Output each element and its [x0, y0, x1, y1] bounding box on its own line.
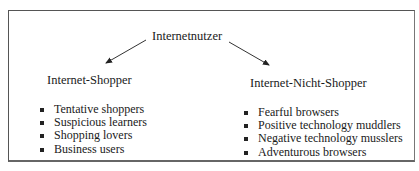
bullet-icon: [40, 108, 44, 112]
shopper-list: Tentative shoppers Suspicious learners S…: [40, 103, 147, 156]
list-item: Business users: [40, 143, 147, 156]
bullet-icon: [244, 124, 248, 128]
bullet-icon: [244, 151, 248, 155]
bullet-icon: [244, 111, 248, 115]
branch-heading-nicht-shopper: Internet-Nicht-Shopper: [250, 76, 367, 91]
root-node-label: Internetnutzer: [152, 29, 222, 44]
list-item: Adventurous browsers: [244, 146, 403, 159]
bullet-icon: [244, 137, 248, 141]
arrow-to-shopper: [106, 40, 146, 63]
bullet-icon: [40, 148, 44, 152]
branch-heading-shopper: Internet-Shopper: [47, 73, 132, 88]
nicht-shopper-list: Fearful browsers Positive technology mud…: [244, 106, 403, 159]
bullet-icon: [40, 121, 44, 125]
arrow-to-nicht-shopper: [229, 42, 269, 65]
bullet-icon: [40, 134, 44, 138]
